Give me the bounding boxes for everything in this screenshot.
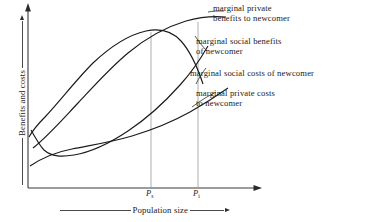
tick-pi-subscript: i (198, 193, 200, 199)
label-mpb-line1: marginal private (213, 3, 290, 13)
x-axis-title-arrow-icon (225, 208, 230, 212)
curve-marginal-social-benefits (29, 30, 203, 137)
x-axis-title-rule-right (190, 210, 224, 211)
x-axis-title-text: Population size (133, 205, 189, 215)
label-mpc-line2: to newcomer (196, 98, 275, 108)
x-axis-title-rule-left (60, 210, 131, 211)
label-marginal-private-benefits: marginal private benefits to newcomer (213, 3, 290, 23)
label-mpb-line2: benefits to newcomer (213, 13, 290, 23)
label-msb-line1: marginal social benefits (196, 36, 282, 46)
label-marginal-social-costs: marginal social costs of newcomer (190, 68, 314, 78)
y-axis-title-text: Benefits and costs (17, 70, 27, 136)
x-axis-title: Population size (60, 205, 230, 215)
x-axis-arrowhead (254, 185, 263, 191)
y-axis-arrowhead (25, 3, 31, 12)
x-tick-label-pi: Pi (193, 189, 200, 198)
label-marginal-social-benefits: marginal social benefits of newcomer (196, 36, 282, 56)
label-msb-line2: of newcomer (196, 46, 282, 56)
y-axis-title-rule-right (22, 21, 23, 68)
x-tick-label-ps: Ps (146, 189, 153, 198)
y-axis-title-rule-left (22, 138, 23, 185)
label-marginal-private-costs: marginal private costs to newcomer (196, 88, 275, 108)
plot-area (0, 0, 366, 222)
y-axis-title: Benefits and costs (17, 15, 27, 185)
economics-diagram: marginal private benefits to newcomer ma… (0, 0, 366, 222)
label-msc-line1: marginal social costs of newcomer (190, 68, 314, 78)
label-mpc-line1: marginal private costs (196, 88, 275, 98)
y-axis-title-arrow-icon (20, 15, 24, 20)
tick-ps-subscript: s (151, 193, 153, 199)
